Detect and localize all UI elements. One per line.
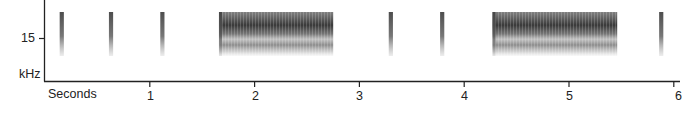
pulse-mark [160, 12, 164, 56]
y-axis-unit-label: kHz [19, 67, 41, 81]
x-tick-label-3: 3 [356, 89, 363, 103]
x-tick-label-1: 1 [147, 89, 154, 103]
pulse-mark [109, 12, 113, 56]
x-tick-label-4: 4 [461, 89, 468, 103]
spectrogram-chart [0, 0, 697, 114]
pulse-mark [659, 12, 663, 56]
x-tick-label-6: 6 [675, 89, 682, 103]
x-axis-unit-label: Seconds [48, 87, 97, 101]
pulse-mark [440, 12, 444, 56]
spectrogram-events [60, 12, 664, 56]
y-tick-label-15: 15 [21, 31, 35, 45]
x-ticks [150, 82, 674, 88]
x-tick-label-2: 2 [252, 89, 259, 103]
pulse-mark [389, 12, 393, 56]
x-tick-label-5: 5 [566, 89, 573, 103]
pulse-mark [60, 12, 64, 56]
